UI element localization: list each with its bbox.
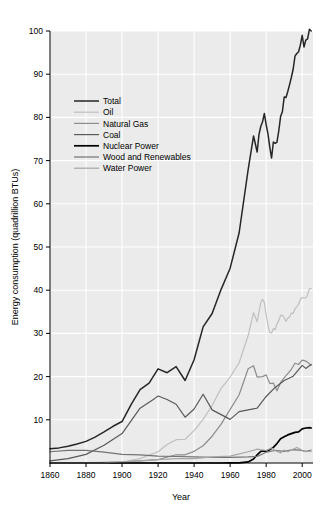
legend-label-oil: Oil <box>103 107 114 117</box>
x-tick-label: 1960 <box>221 470 240 480</box>
legend-label-natural-gas: Natural Gas <box>103 119 148 129</box>
y-tick-label: 100 <box>29 26 43 36</box>
y-tick-label: 70 <box>34 156 44 166</box>
x-tick-label: 2000 <box>293 470 312 480</box>
legend-label-total: Total <box>103 96 121 106</box>
y-tick-label: 10 <box>34 415 44 425</box>
x-tick-label: 1940 <box>185 470 204 480</box>
y-tick-label: 20 <box>34 372 44 382</box>
legend-label-wood-and-renewables: Wood and Renewables <box>103 152 191 162</box>
y-tick-label: 60 <box>34 199 44 209</box>
y-tick-label: 30 <box>34 328 44 338</box>
legend-label-nuclear-power: Nuclear Power <box>103 141 159 151</box>
y-tick-label: 80 <box>34 112 44 122</box>
x-tick-label: 1900 <box>113 470 132 480</box>
energy-consumption-chart: 1020304050607080901001860188019001920194… <box>0 0 332 512</box>
x-axis-title: Year <box>172 492 190 502</box>
x-tick-label: 1920 <box>149 470 168 480</box>
x-tick-label: 1980 <box>257 470 276 480</box>
y-tick-label: 50 <box>34 242 44 252</box>
y-tick-label: 40 <box>34 285 44 295</box>
legend-label-water-power: Water Power <box>103 163 152 173</box>
y-axis-title: Energy consumption (quadrillion BTUs) <box>10 169 20 326</box>
y-tick-label: 90 <box>34 69 44 79</box>
chart-canvas: 1020304050607080901001860188019001920194… <box>0 0 332 512</box>
legend-label-coal: Coal <box>103 130 121 140</box>
x-tick-label: 1860 <box>41 470 60 480</box>
x-tick-label: 1880 <box>77 470 96 480</box>
